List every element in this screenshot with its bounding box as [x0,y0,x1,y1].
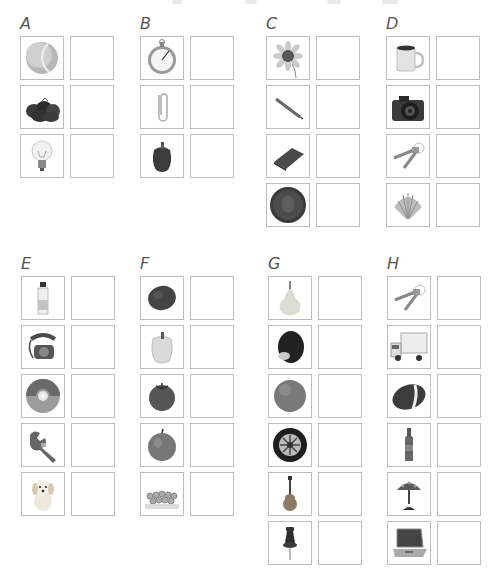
camera-icon [388,87,428,127]
answer-box[interactable] [70,85,114,129]
tomato-icon [142,376,182,416]
answer-box[interactable] [190,134,234,178]
orange-icon [270,376,310,416]
match-row [386,36,481,80]
cd-icon [23,376,63,416]
picture-box-apple [140,423,184,467]
picture-box-puppy [21,472,65,516]
match-row [387,276,482,320]
group-b: B [140,12,236,183]
match-row [21,325,116,369]
picture-box-guitar [268,472,312,516]
answer-box[interactable] [437,374,481,418]
football-icon [389,376,429,416]
picture-box-strawberries [20,85,64,129]
group-label: B [140,14,151,33]
picture-box-bell-pepper [140,134,184,178]
answer-box[interactable] [436,36,480,80]
answer-box[interactable] [436,134,480,178]
answer-box[interactable] [318,374,362,418]
truck-icon [389,327,429,367]
water-bottle-icon [23,278,63,318]
match-row [21,374,116,418]
match-row [268,325,363,369]
avocado-icon [270,327,310,367]
picture-box-keys [387,276,431,320]
answer-box[interactable] [437,472,481,516]
match-row [266,183,361,227]
tire-icon [270,425,310,465]
laptop-icon [389,523,429,563]
bottle-icon [389,425,429,465]
group-label: F [140,254,149,273]
keys-icon [389,278,429,318]
answer-box[interactable] [318,472,362,516]
answer-box[interactable] [318,423,362,467]
match-row [140,423,235,467]
answer-box[interactable] [71,472,115,516]
answer-box[interactable] [190,472,234,516]
wrench-icon [23,425,63,465]
answer-box[interactable] [316,183,360,227]
answer-box[interactable] [190,36,234,80]
picture-box-tennis-ball [20,36,64,80]
answer-box[interactable] [190,423,234,467]
group-d: D [386,12,482,232]
match-row [266,134,361,178]
match-row [140,325,235,369]
answer-box[interactable] [437,521,481,565]
answer-box[interactable] [318,276,362,320]
answer-box[interactable] [190,276,234,320]
answer-box[interactable] [437,325,481,369]
lamp-icon [389,474,429,514]
picture-box-sunflower [266,36,310,80]
answer-box[interactable] [437,423,481,467]
cropped-text-fragment [172,0,182,4]
answer-box[interactable] [318,325,362,369]
answer-box[interactable] [71,325,115,369]
match-row [268,472,363,516]
answer-box[interactable] [190,325,234,369]
answer-box[interactable] [437,276,481,320]
match-row [268,374,363,418]
penny-icon [268,185,308,225]
group-e: E [21,252,117,521]
picture-box-laptop [387,521,431,565]
picture-box-light-bulb [20,134,64,178]
answer-box[interactable] [436,85,480,129]
answer-box[interactable] [316,36,360,80]
match-row [21,423,116,467]
match-row [387,374,482,418]
answer-box[interactable] [190,374,234,418]
picture-box-pencil [266,85,310,129]
picture-box-penny [266,183,310,227]
group-label: H [387,254,399,273]
answer-box[interactable] [70,36,114,80]
answer-box[interactable] [70,134,114,178]
apple-icon [142,425,182,465]
pear-icon [270,278,310,318]
answer-box[interactable] [71,276,115,320]
answer-box[interactable] [71,423,115,467]
tennis-ball-icon [22,38,62,78]
picture-box-camera [386,85,430,129]
book-icon [268,136,308,176]
answer-box[interactable] [436,183,480,227]
picture-box-tomato [140,374,184,418]
picture-box-grapes [140,472,184,516]
answer-box[interactable] [190,85,234,129]
answer-box[interactable] [316,134,360,178]
answer-box[interactable] [71,374,115,418]
answer-box[interactable] [316,85,360,129]
answer-box[interactable] [318,521,362,565]
match-row [140,276,235,320]
picture-box-seashell [386,183,430,227]
picture-box-paper-clip [140,85,184,129]
picture-box-tire [268,423,312,467]
group-a: A [20,12,116,183]
match-row [268,276,363,320]
group-label: E [21,254,31,273]
picture-box-telephone [21,325,65,369]
match-row [266,85,361,129]
match-row [21,276,116,320]
